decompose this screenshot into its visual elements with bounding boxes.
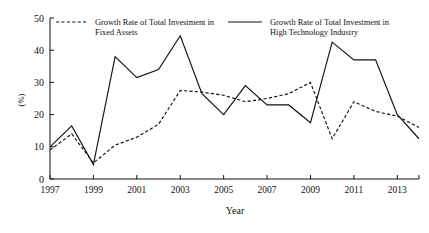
y-axis-tick-label: 50 bbox=[34, 13, 44, 24]
x-axis-tick-labels: 199719992001200320052007200920112013 bbox=[41, 185, 408, 195]
legend-label-high-tech-line1: Growth Rate of Total Investment in bbox=[270, 18, 390, 27]
x-axis-title: Year bbox=[226, 205, 245, 216]
y-axis-ticks bbox=[50, 18, 54, 179]
y-axis-title: (%) bbox=[16, 93, 26, 106]
series-line-fixed-assets bbox=[50, 82, 419, 162]
x-axis-tick-label: 2003 bbox=[171, 185, 190, 195]
x-axis-tick-label: 2011 bbox=[345, 185, 364, 195]
chart-axes: 01020304050 1997199920012003200520072009… bbox=[34, 13, 419, 196]
y-axis-tick-label: 20 bbox=[34, 109, 44, 120]
x-axis-tick-label: 2007 bbox=[258, 185, 277, 195]
y-axis-tick-label: 0 bbox=[39, 174, 44, 185]
x-axis-tick-label: 2005 bbox=[214, 185, 233, 195]
chart-canvas: Growth Rate of Total Investment in Fixed… bbox=[0, 0, 429, 233]
y-axis-tick-label: 40 bbox=[34, 45, 44, 56]
legend-label-fixed-assets-line1: Growth Rate of Total Investment in bbox=[95, 18, 215, 27]
y-axis-tick-labels: 01020304050 bbox=[34, 13, 44, 185]
x-axis-tick-label: 1997 bbox=[41, 185, 60, 195]
series-line-high-technology-industry bbox=[50, 36, 419, 165]
x-axis-tick-label: 2001 bbox=[127, 185, 146, 195]
line-chart-figure: Growth Rate of Total Investment in Fixed… bbox=[0, 0, 429, 233]
x-axis-tick-label: 2009 bbox=[301, 185, 320, 195]
legend-label-high-tech-line2: High Technology Industry bbox=[270, 28, 359, 37]
x-axis-tick-label: 1999 bbox=[84, 185, 103, 195]
x-axis-tick-label: 2013 bbox=[388, 185, 407, 195]
legend-label-fixed-assets-line2: Fixed Assets bbox=[95, 28, 138, 37]
y-axis-tick-label: 30 bbox=[34, 77, 44, 88]
x-axis-ticks bbox=[50, 175, 419, 179]
y-axis-tick-label: 10 bbox=[34, 141, 44, 152]
chart-legend: Growth Rate of Total Investment in Fixed… bbox=[56, 18, 390, 37]
chart-plot-area bbox=[50, 36, 419, 165]
